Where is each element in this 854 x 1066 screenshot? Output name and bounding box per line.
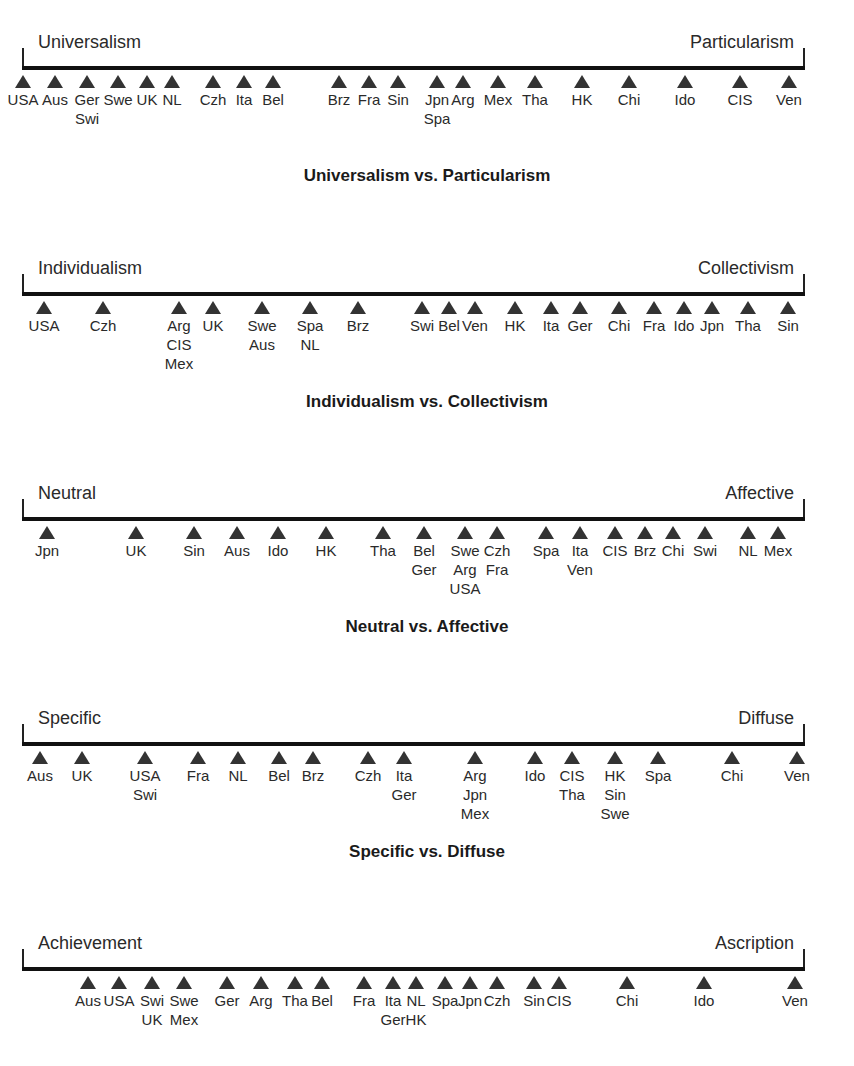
triangle-marker-icon xyxy=(467,301,483,314)
triangle-marker-icon xyxy=(74,751,90,764)
country-label: HK xyxy=(296,541,356,560)
triangle-marker-icon xyxy=(230,751,246,764)
triangle-marker-icon xyxy=(205,75,221,88)
country-label: Ita Ger xyxy=(374,766,434,804)
triangle-marker-icon xyxy=(704,301,720,314)
dimension-caption: Universalism vs. Particularism xyxy=(0,166,854,186)
triangle-marker-icon xyxy=(236,75,252,88)
triangle-marker-icon xyxy=(360,751,376,764)
dimension-row-neutral: Neutral Affective JpnUKSinAusIdoHKThaBel… xyxy=(0,471,854,671)
country-label: USA Swi xyxy=(115,766,175,804)
triangle-marker-icon xyxy=(564,751,580,764)
right-pole-label: Diffuse xyxy=(738,708,794,729)
triangle-marker-icon xyxy=(574,75,590,88)
triangle-marker-icon xyxy=(144,976,160,989)
triangle-marker-icon xyxy=(32,751,48,764)
axis-bar xyxy=(22,66,805,70)
triangle-marker-icon xyxy=(676,301,692,314)
triangle-marker-icon xyxy=(164,75,180,88)
dimension-row-achievement: Achievement Ascription AusUSASwi UKSwe M… xyxy=(0,921,854,1066)
triangle-marker-icon xyxy=(47,75,63,88)
left-pole-label: Individualism xyxy=(38,258,142,279)
country-label: UK xyxy=(106,541,166,560)
triangle-marker-icon xyxy=(646,301,662,314)
triangle-marker-icon xyxy=(572,526,588,539)
triangle-marker-icon xyxy=(527,751,543,764)
triangle-marker-icon xyxy=(490,75,506,88)
triangle-marker-icon xyxy=(416,526,432,539)
country-label: Spa xyxy=(628,766,688,785)
country-label: CIS xyxy=(529,991,589,1010)
country-label: Ido xyxy=(655,90,715,109)
triangle-marker-icon xyxy=(375,526,391,539)
triangle-marker-icon xyxy=(110,75,126,88)
triangle-marker-icon xyxy=(361,75,377,88)
triangle-marker-icon xyxy=(414,301,430,314)
triangle-marker-icon xyxy=(171,301,187,314)
right-pole-label: Particularism xyxy=(690,32,794,53)
triangle-marker-icon xyxy=(408,976,424,989)
triangle-marker-icon xyxy=(572,301,588,314)
triangle-marker-icon xyxy=(39,526,55,539)
country-label: Chi xyxy=(599,90,659,109)
triangle-marker-icon xyxy=(696,976,712,989)
country-label: Arg Jpn Mex xyxy=(445,766,505,823)
triangle-marker-icon xyxy=(176,976,192,989)
triangle-marker-icon xyxy=(780,301,796,314)
triangle-marker-icon xyxy=(677,75,693,88)
triangle-marker-icon xyxy=(219,976,235,989)
dimension-caption: Neutral vs. Affective xyxy=(0,617,854,637)
triangle-marker-icon xyxy=(390,75,406,88)
right-pole-label: Collectivism xyxy=(698,258,794,279)
axis-bar xyxy=(22,517,805,521)
triangle-marker-icon xyxy=(527,75,543,88)
country-label: Ven xyxy=(767,766,827,785)
triangle-marker-icon xyxy=(15,75,31,88)
triangle-marker-icon xyxy=(80,976,96,989)
triangle-marker-icon xyxy=(457,526,473,539)
triangle-marker-icon xyxy=(302,301,318,314)
country-label: Chi xyxy=(702,766,762,785)
triangle-marker-icon xyxy=(789,751,805,764)
triangle-marker-icon xyxy=(318,526,334,539)
triangle-marker-icon xyxy=(489,526,505,539)
dimension-row-specific: Specific Diffuse AusUKUSA SwiFraNLBelBrz… xyxy=(0,696,854,896)
triangle-marker-icon xyxy=(781,75,797,88)
triangle-marker-icon xyxy=(314,976,330,989)
triangle-marker-icon xyxy=(254,301,270,314)
country-label: Brz xyxy=(283,766,343,785)
dimension-caption: Specific vs. Diffuse xyxy=(0,842,854,862)
triangle-marker-icon xyxy=(455,75,471,88)
country-label: Ven xyxy=(759,90,819,109)
triangle-marker-icon xyxy=(270,526,286,539)
triangle-marker-icon xyxy=(607,526,623,539)
triangle-marker-icon xyxy=(543,301,559,314)
country-label: Chi xyxy=(597,991,657,1010)
triangle-marker-icon xyxy=(462,976,478,989)
triangle-marker-icon xyxy=(526,976,542,989)
triangle-marker-icon xyxy=(350,301,366,314)
triangle-marker-icon xyxy=(396,751,412,764)
triangle-marker-icon xyxy=(732,75,748,88)
triangle-marker-icon xyxy=(190,751,206,764)
axis-bar xyxy=(22,742,805,746)
triangle-marker-icon xyxy=(356,976,372,989)
country-label: USA xyxy=(14,316,74,335)
country-label: Sin xyxy=(758,316,818,335)
triangle-marker-icon xyxy=(287,976,303,989)
triangle-marker-icon xyxy=(650,751,666,764)
triangle-marker-icon xyxy=(787,976,803,989)
triangle-marker-icon xyxy=(621,75,637,88)
triangle-marker-icon xyxy=(331,75,347,88)
triangle-marker-icon xyxy=(205,301,221,314)
axis-bar xyxy=(22,967,805,971)
dimension-row-universalism: Universalism Particularism USAAusGer Swi… xyxy=(0,20,854,220)
triangle-marker-icon xyxy=(305,751,321,764)
triangle-marker-icon xyxy=(441,301,457,314)
country-label: Czh xyxy=(73,316,133,335)
left-pole-label: Specific xyxy=(38,708,101,729)
triangle-marker-icon xyxy=(551,976,567,989)
country-label: Bel xyxy=(243,90,303,109)
dimension-caption: Individualism vs. Collectivism xyxy=(0,392,854,412)
triangle-marker-icon xyxy=(186,526,202,539)
